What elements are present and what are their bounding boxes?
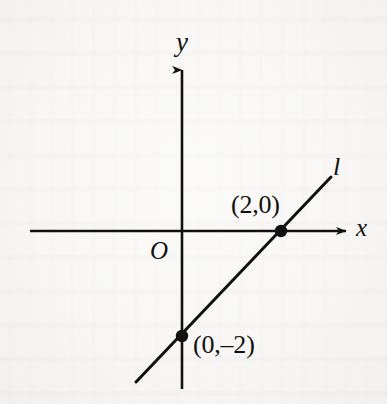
x-axis-label: x [356, 215, 367, 240]
point-2-0 [275, 225, 287, 237]
line-label: l [333, 154, 340, 180]
coordinate-plane-figure: y x l O (2,0) (0,–2) [0, 0, 387, 404]
point-label-0-minus2: (0,–2) [193, 332, 255, 358]
point-0-minus2 [176, 330, 188, 342]
y-axis-label: y [176, 29, 188, 56]
origin-label: O [150, 238, 168, 263]
point-label-2-0: (2,0) [231, 192, 280, 218]
